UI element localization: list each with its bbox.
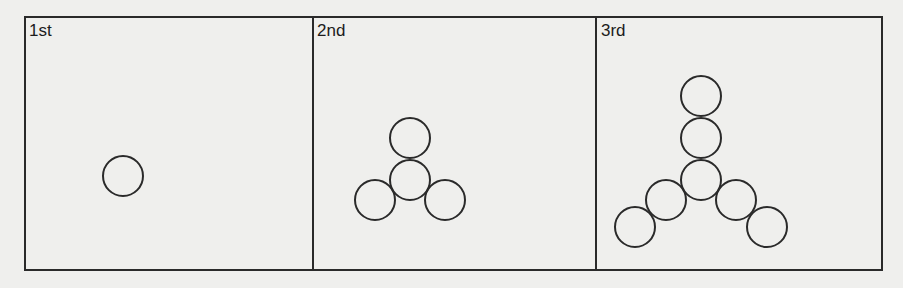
panel-3-circles <box>615 76 787 247</box>
circle <box>681 160 721 200</box>
circle-patterns <box>0 0 903 288</box>
circle <box>681 76 721 116</box>
circle <box>425 180 465 220</box>
panel-1-circles <box>103 156 143 196</box>
circle <box>716 180 756 220</box>
circle <box>646 180 686 220</box>
circle <box>103 156 143 196</box>
circle <box>681 118 721 158</box>
circle <box>390 118 430 158</box>
circle <box>747 207 787 247</box>
circle <box>615 207 655 247</box>
panel-2-circles <box>355 118 465 220</box>
circle <box>355 180 395 220</box>
circle <box>390 160 430 200</box>
